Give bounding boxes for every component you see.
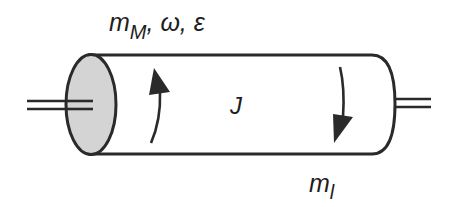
load-label: ml	[309, 169, 335, 203]
cylinder-end-cap	[66, 55, 116, 155]
motor-label: mM, ω, ε	[109, 8, 206, 43]
load-torque-symbol: m	[309, 169, 330, 197]
motor-torque-symbol: m	[109, 8, 130, 36]
right-shaft	[395, 99, 431, 107]
load-torque-arrow-icon	[333, 67, 353, 143]
inertia-label: J	[229, 92, 243, 119]
motor-torque-subscript: M	[130, 21, 147, 43]
rotating-inertia-diagram: mM, ω, ε J ml	[0, 0, 453, 207]
load-torque-subscript: l	[330, 181, 335, 203]
speed-accel-symbols: , ω, ε	[147, 8, 206, 36]
motor-torque-arrow-icon	[149, 68, 170, 143]
